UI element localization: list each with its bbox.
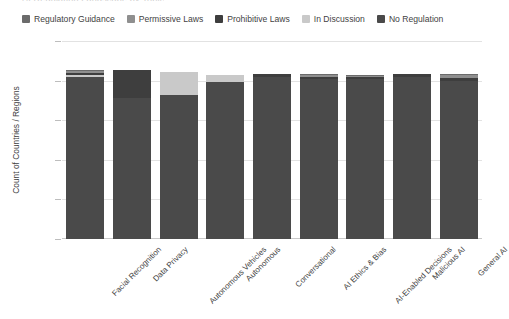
y-tick-mark	[55, 41, 61, 42]
y-gridline	[62, 41, 482, 42]
bar-segment	[346, 79, 384, 239]
legend-swatch-icon	[302, 15, 310, 23]
legend-item-label: Permissive Laws	[139, 15, 203, 24]
x-tick-label: AI Ethics & Bias	[341, 245, 388, 292]
bar-facial-recognition[interactable]	[66, 70, 104, 239]
legend-item[interactable]: Regulatory Guidance	[22, 15, 115, 24]
bar-segment	[440, 81, 478, 239]
legend-swatch-icon	[127, 15, 135, 23]
bar-segment	[160, 72, 198, 95]
legend-swatch-icon	[22, 15, 30, 23]
legend-item[interactable]: Prohibitive Laws	[215, 15, 290, 24]
bar-segment	[160, 95, 198, 239]
legend-item[interactable]: Permissive Laws	[127, 15, 203, 24]
chart-legend: Regulatory GuidancePermissive LawsProhib…	[22, 15, 443, 24]
bar-malicious-ai[interactable]	[393, 74, 431, 239]
x-tick-label: AI-Enabled Decisions	[394, 245, 454, 305]
legend-item-label: Prohibitive Laws	[227, 15, 290, 24]
x-tick-label: Autonomous Vehicles	[207, 245, 268, 306]
y-tick-mark	[55, 81, 61, 82]
legend-item-label: In Discussion	[314, 15, 365, 24]
bar-data-privacy[interactable]	[113, 70, 151, 239]
bar-segment	[393, 77, 431, 239]
bar-segment	[113, 70, 151, 98]
bar-segment	[253, 77, 291, 239]
y-axis-label-wrapper: Count of Countries / Regions	[10, 41, 24, 239]
bar-segment	[206, 82, 244, 239]
bar-autonomous-vehicles[interactable]	[160, 72, 198, 239]
plot-area: 050100150200250	[62, 41, 482, 239]
legend-item-label: No Regulation	[389, 15, 443, 24]
chart-title-clipped: AI Regulation Landscape by Topic	[22, 0, 164, 1]
bar-ai-ethics-bias[interactable]	[300, 74, 338, 239]
bar-segment	[66, 77, 104, 239]
bar-segment	[300, 79, 338, 239]
x-tick-label: Conversational	[294, 245, 338, 289]
bar-segment	[113, 98, 151, 239]
bar-ai-enabled-decisions[interactable]	[346, 75, 384, 239]
y-axis-label: Count of Countries / Regions	[11, 86, 21, 194]
y-tick-mark	[55, 199, 61, 200]
bar-conversational[interactable]	[253, 74, 291, 239]
legend-swatch-icon	[215, 15, 223, 23]
legend-item-label: Regulatory Guidance	[34, 15, 115, 24]
bar-autonomous[interactable]	[206, 75, 244, 239]
y-tick-mark	[55, 120, 61, 121]
x-tick-label: General AI	[476, 245, 509, 278]
y-tick-mark	[55, 160, 61, 161]
legend-swatch-icon	[377, 15, 385, 23]
legend-item[interactable]: No Regulation	[377, 15, 443, 24]
y-tick-mark	[55, 239, 61, 240]
legend-item[interactable]: In Discussion	[302, 15, 365, 24]
bar-general-ai[interactable]	[440, 74, 478, 239]
bar-segment	[206, 75, 244, 82]
